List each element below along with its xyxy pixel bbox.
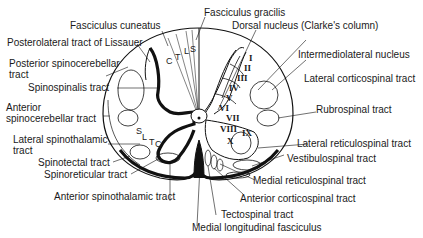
lamina-viii: VIII: [220, 124, 237, 135]
label-lateral-reticulospinal: Lateral reticulospinal tract: [297, 138, 411, 149]
lamina-x: X: [227, 136, 234, 147]
label-anterior-spinocerebellar-2: spinocerebellar tract: [6, 113, 96, 124]
lamina-vii: VII: [226, 113, 240, 124]
label-medial-longitudinal: Medial longitudinal fasciculus: [192, 222, 322, 233]
label-spinospinalis: Spinospinalis tract: [28, 82, 109, 93]
segment-letter-c: C: [166, 56, 173, 67]
label-fasciculus-gracilis: Fasciculus gracilis: [204, 7, 285, 18]
label-lateral-spinothalamic: Lateral spinothalamic: [13, 134, 108, 145]
segment-letter-l-lateral: L: [142, 132, 147, 143]
label-posterior-spinocerebellar-2: tract: [9, 69, 28, 80]
lamina-ix: IX: [242, 128, 252, 139]
label-anterior-spinocerebellar: Anterior: [6, 102, 41, 113]
label-fasciculus-cuneatus: Fasciculus cuneatus: [70, 20, 161, 31]
label-intermediolateral-nucleus: Intermediolateral nucleus: [298, 49, 410, 60]
label-vestibulospinal: Vestibulospinal tract: [287, 153, 376, 164]
segment-letter-t-lateral: T: [149, 137, 155, 148]
label-spinotectal: Spinotectal tract: [38, 157, 110, 168]
label-anterior-corticospinal: Anterior corticospinal tract: [240, 193, 356, 204]
label-rubrospinal: Rubrospinal tract: [316, 104, 392, 115]
segment-letter-c-lateral: C: [155, 139, 162, 150]
segment-letter-s: S: [190, 44, 196, 55]
segment-letter-l: L: [184, 46, 189, 57]
label-spinoreticular: Spinoreticular tract: [44, 169, 127, 180]
label-tectospinal: Tectospinal tract: [221, 209, 293, 220]
label-posterolateral-tract: Posterolateral tract of Lissauer: [7, 37, 143, 48]
label-lateral-corticospinal: Lateral corticospinal tract: [304, 73, 415, 84]
label-anterior-spinothalamic: Anterior spinothalamic tract: [54, 191, 175, 202]
label-dorsal-nucleus: Dorsal nucleus (Clarke's column): [232, 20, 378, 31]
label-lateral-spinothalamic-2: tract: [13, 145, 32, 156]
segment-letter-t: T: [175, 52, 181, 63]
label-posterior-spinocerebellar: Posterior spinocerebellar: [9, 58, 120, 69]
label-medial-reticulospinal: Medial reticulospinal tract: [253, 175, 366, 186]
